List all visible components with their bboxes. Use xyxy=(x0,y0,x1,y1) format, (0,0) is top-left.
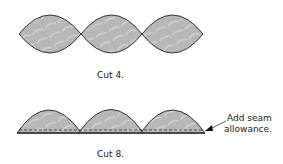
bottom-caption: Cut 8. xyxy=(97,149,124,160)
arrow-icon xyxy=(205,121,226,131)
arch-piece-3 xyxy=(142,110,205,133)
bottom-pieces xyxy=(17,110,205,134)
oval-piece-3 xyxy=(142,15,203,53)
quilt-pattern-diagram xyxy=(0,0,283,164)
annotation-line-1: Add seam xyxy=(227,113,272,124)
oval-piece-2 xyxy=(81,15,142,53)
top-pieces xyxy=(19,15,203,53)
oval-piece-1 xyxy=(19,15,81,53)
top-caption: Cut 4. xyxy=(97,70,124,81)
arch-piece-1 xyxy=(17,110,80,133)
arch-piece-2 xyxy=(80,110,142,134)
annotation-line-2: allowance. xyxy=(224,124,272,135)
